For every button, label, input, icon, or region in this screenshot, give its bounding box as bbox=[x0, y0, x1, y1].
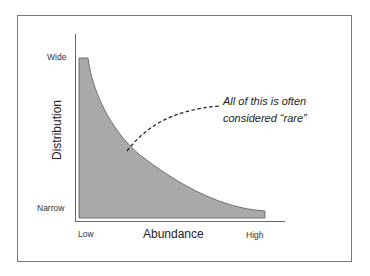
annotation-line-2: considered “rare” bbox=[223, 110, 307, 127]
annotation-text: All of this is often considered “rare” bbox=[223, 93, 307, 127]
outer-frame bbox=[18, 16, 352, 262]
x-tick-high: High bbox=[246, 230, 263, 240]
x-tick-low: Low bbox=[78, 229, 94, 239]
y-tick-wide: Wide bbox=[47, 52, 66, 62]
rarity-diagram: Wide Narrow Low High Abundance Distribut… bbox=[0, 0, 370, 276]
x-axis-title: Abundance bbox=[143, 227, 204, 241]
y-tick-narrow: Narrow bbox=[37, 203, 64, 213]
y-axis-title: Distribution bbox=[50, 100, 64, 160]
annotation-line-1: All of this is often bbox=[223, 93, 307, 110]
